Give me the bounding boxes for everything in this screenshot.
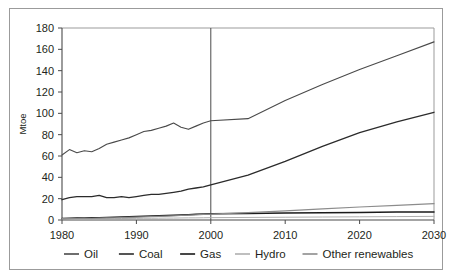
y-tick-label: 100 [36,107,54,119]
y-tick-label: 180 [36,22,54,34]
x-tick-label: 1990 [124,229,148,241]
legend-label-oil: Oil [84,248,98,260]
x-tick-label: 1980 [50,229,74,241]
y-axis-title: Mtoe [17,113,28,134]
y-tick-label: 40 [42,171,54,183]
x-tick-label: 2010 [273,229,297,241]
y-tick-label: 120 [36,86,54,98]
x-tick-label: 2030 [422,229,446,241]
y-tick-label: 0 [48,214,54,226]
line-chart: 0204060801001201401601801980199020002010… [0,0,452,278]
legend-label-coal: Coal [139,248,163,260]
x-tick-label: 2020 [347,229,371,241]
plot-background [62,28,434,220]
legend-label-gas: Gas [200,248,221,260]
y-tick-label: 60 [42,150,54,162]
y-tick-label: 160 [36,43,54,55]
figure-container: 0204060801001201401601801980199020002010… [0,0,452,278]
y-tick-label: 80 [42,129,54,141]
y-tick-label: 140 [36,65,54,77]
legend-label-hydro: Hydro [255,248,286,260]
x-tick-label: 2000 [199,229,223,241]
y-tick-label: 20 [42,193,54,205]
legend-label-other-renewables: Other renewables [323,248,414,260]
